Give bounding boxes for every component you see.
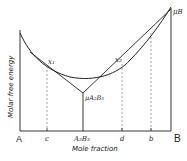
tangent-line-right bbox=[83, 9, 171, 93]
end-label-b: B bbox=[174, 133, 181, 144]
free-energy-curve bbox=[20, 7, 171, 78]
tick-label-d: d bbox=[120, 135, 125, 143]
tick-label-compound: A₂B₃ bbox=[73, 135, 90, 143]
x2-label: x₂ bbox=[115, 56, 122, 64]
free-energy-diagram: x₁ x₂ μA₂B₃ μB A B c A₂B₃ d b Mole fract… bbox=[0, 0, 187, 161]
tick-label-c: c bbox=[45, 135, 49, 143]
tick-label-b: b bbox=[149, 135, 154, 143]
x1-label: x₁ bbox=[48, 58, 55, 66]
mu-b-label: μB bbox=[173, 8, 183, 16]
end-label-a: A bbox=[16, 134, 22, 144]
y-axis-title: Molar free energy bbox=[7, 55, 15, 118]
x-axis-title: Mole fraction bbox=[72, 145, 118, 153]
tangent-line-left bbox=[30, 52, 83, 93]
mu-compound-label: μA₂B₃ bbox=[85, 94, 104, 102]
